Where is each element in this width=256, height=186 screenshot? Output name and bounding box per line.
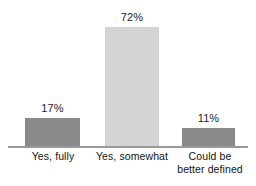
plot-area: 17% 72% 11% — [0, 0, 256, 147]
bar-yes-somewhat: 72% — [105, 27, 159, 147]
bar-value-yes-fully: 17% — [41, 102, 63, 114]
bar-chart: 17% 72% 11% Yes, fully Yes, somewhat Cou… — [0, 0, 256, 186]
bar-group-yes-fully: 17% — [25, 0, 80, 147]
x-label-yes-fully: Yes, fully — [10, 150, 96, 163]
x-label-yes-fully-line1: Yes, fully — [32, 150, 75, 162]
x-label-could-be-better-defined: Could be better defined — [172, 150, 248, 176]
x-axis-labels: Yes, fully Yes, somewhat Could be better… — [0, 150, 256, 186]
bar-yes-fully: 17% — [25, 118, 80, 147]
bar-could-be-better-defined: 11% — [182, 128, 235, 147]
x-label-yes-somewhat-line1: Yes, somewhat — [96, 150, 168, 162]
bar-group-yes-somewhat: 72% — [105, 0, 159, 147]
bar-value-could-be-better-defined: 11% — [198, 112, 220, 124]
x-label-yes-somewhat: Yes, somewhat — [90, 150, 174, 163]
x-label-could-be-better-defined-line2: better defined — [172, 163, 248, 176]
x-label-could-be-better-defined-line1: Could be — [189, 150, 232, 162]
x-axis-line — [8, 146, 248, 148]
bar-group-could-be-better-defined: 11% — [182, 0, 235, 147]
bar-value-yes-somewhat: 72% — [121, 11, 143, 23]
